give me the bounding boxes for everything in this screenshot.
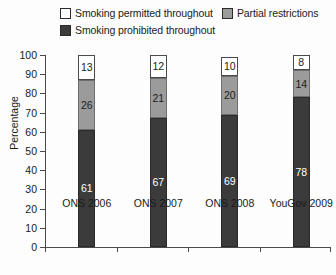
bar-segment[interactable]: 67 — [150, 118, 167, 247]
stacked-bar[interactable]: 672112 — [150, 55, 167, 247]
legend-entry[interactable]: Smoking permitted throughout — [60, 8, 213, 19]
y-axis-title: Percentage — [8, 75, 20, 171]
legend-swatch-icon — [60, 8, 71, 19]
bar-segment-value: 13 — [81, 62, 93, 73]
x-axis-label: ONS 2008 — [205, 197, 254, 209]
bar-segment-value: 67 — [152, 177, 164, 188]
y-axis-tick: 70 — [40, 113, 45, 114]
bar-segment[interactable]: 13 — [78, 55, 95, 80]
y-axis-tick: 20 — [40, 209, 45, 210]
legend-entry[interactable]: Partial restrictions — [222, 8, 318, 19]
legend-swatch-icon — [222, 8, 233, 19]
legend-row: Smoking permitted throughoutPartial rest… — [60, 6, 332, 21]
stacked-bar-chart: Smoking permitted throughoutPartial rest… — [0, 0, 336, 275]
y-axis-tick-label: 10 — [25, 222, 37, 234]
x-axis-tick — [330, 248, 331, 252]
x-axis-tick — [45, 248, 46, 252]
bar-segment-value: 8 — [298, 57, 304, 68]
bar-segment-value: 26 — [81, 100, 93, 111]
bar-segment[interactable]: 8 — [293, 55, 310, 70]
stacked-bar[interactable]: 78148 — [293, 55, 310, 247]
bar-segment[interactable]: 20 — [221, 76, 238, 114]
bar-segment-value: 20 — [224, 90, 236, 101]
x-axis-label: ONS 2007 — [134, 197, 183, 209]
legend-row: Smoking prohibited throughout — [60, 23, 332, 38]
bar-segment[interactable]: 10 — [221, 57, 238, 76]
bar-segment[interactable]: 26 — [78, 80, 95, 130]
x-axis-tick — [188, 248, 189, 252]
y-axis-tick-label: 30 — [25, 183, 37, 195]
bar-segment[interactable]: 12 — [150, 55, 167, 78]
bar-segment-value: 10 — [224, 61, 236, 72]
bar-segment-value: 61 — [81, 183, 93, 194]
y-axis-tick-label: 100 — [19, 49, 37, 61]
stacked-bar[interactable]: 692010 — [221, 57, 238, 247]
legend-label: Smoking prohibited throughout — [75, 25, 215, 36]
bar-segment[interactable]: 61 — [78, 130, 95, 247]
y-axis-tick-label: 40 — [25, 164, 37, 176]
y-axis-tick-label: 90 — [25, 68, 37, 80]
legend-label: Smoking permitted throughout — [75, 8, 213, 19]
y-axis-tick-label: 80 — [25, 87, 37, 99]
y-axis-tick-label: 60 — [25, 126, 37, 138]
y-axis-tick: 30 — [40, 189, 45, 190]
x-axis-label: YouGov 2009 — [270, 197, 333, 209]
bar-segment[interactable]: 78 — [293, 97, 310, 247]
chart-legend: Smoking permitted throughoutPartial rest… — [60, 6, 332, 40]
x-axis-label: ONS 2006 — [62, 197, 111, 209]
y-axis-line — [45, 55, 46, 248]
legend-label: Partial restrictions — [237, 8, 318, 19]
y-axis-tick-label: 50 — [25, 145, 37, 157]
y-axis-tick: 80 — [40, 93, 45, 94]
x-axis-tick — [260, 248, 261, 252]
y-axis-tick-label: 0 — [31, 241, 37, 253]
y-axis-tick: 40 — [40, 170, 45, 171]
plot-area: 1009080706050403020100 61261367211269201… — [45, 55, 331, 248]
bar-segment-value: 78 — [295, 167, 307, 178]
y-axis-tick: 90 — [40, 74, 45, 75]
bar-segment[interactable]: 69 — [221, 115, 238, 247]
y-axis-tick-label: 70 — [25, 107, 37, 119]
y-axis-tick: 50 — [40, 151, 45, 152]
x-axis-tick — [117, 248, 118, 252]
legend-swatch-icon — [60, 25, 71, 36]
y-axis-tick: 100 — [40, 55, 45, 56]
legend-entry[interactable]: Smoking prohibited throughout — [60, 25, 215, 36]
bar-segment-value: 69 — [224, 176, 236, 187]
bar-segment[interactable]: 21 — [150, 78, 167, 118]
bar-segment-value: 21 — [152, 93, 164, 104]
bar-segment-value: 12 — [152, 61, 164, 72]
stacked-bar[interactable]: 612613 — [78, 55, 95, 247]
bar-segment[interactable]: 14 — [293, 70, 310, 97]
y-axis-tick: 60 — [40, 132, 45, 133]
y-axis-tick: 10 — [40, 228, 45, 229]
y-axis-tick-label: 20 — [25, 203, 37, 215]
bar-segment-value: 14 — [295, 79, 307, 90]
